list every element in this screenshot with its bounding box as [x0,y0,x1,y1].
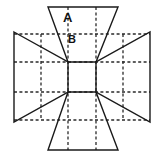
figure-background [0,0,160,159]
label-b: B [68,33,76,45]
figure-canvas: A B [0,0,160,159]
label-a: A [63,10,73,25]
geometry-figure: A B [0,0,160,159]
